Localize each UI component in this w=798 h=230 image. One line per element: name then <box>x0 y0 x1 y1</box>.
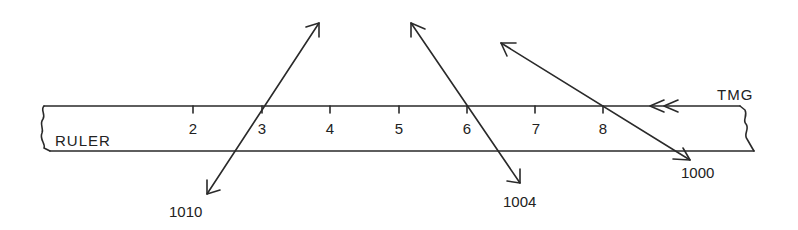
ruler-right-break <box>740 106 754 151</box>
label-1010: 1010 <box>169 203 202 220</box>
ruler-left-break <box>41 106 50 151</box>
tick-label-7: 7 <box>532 120 540 137</box>
tick-label-5: 5 <box>395 120 403 137</box>
arrow-1010 <box>207 23 319 194</box>
ruler-label: RULER <box>55 132 111 149</box>
tick-label-2: 2 <box>189 120 197 137</box>
ruler-ticks <box>193 106 603 113</box>
tick-label-8: 8 <box>599 120 607 137</box>
tick-label-4: 4 <box>326 120 334 137</box>
tick-label-6: 6 <box>463 120 471 137</box>
tick-label-3: 3 <box>258 120 266 137</box>
label-1004: 1004 <box>503 193 536 210</box>
tmg-label: TMG <box>717 86 753 103</box>
ruler-diagram: 2 3 4 5 6 7 8 RULER TMG 1010 1004 1000 <box>0 0 798 230</box>
tick-labels: 2 3 4 5 6 7 8 <box>189 120 607 137</box>
label-1000: 1000 <box>681 164 714 181</box>
